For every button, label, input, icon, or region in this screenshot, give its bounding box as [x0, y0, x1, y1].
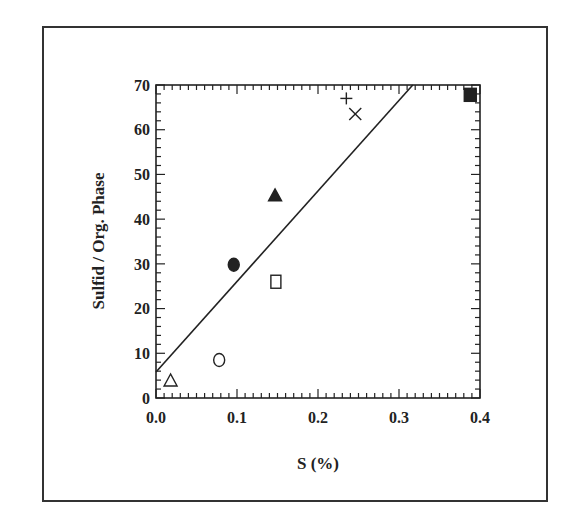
open-circle-marker [214, 353, 225, 366]
y-tick-0: 0 [142, 390, 150, 407]
x-tick-0.0: 0.0 [146, 409, 166, 426]
y-axis-title: Sulfid / Org. Phase [89, 172, 108, 309]
y-tick-20: 20 [134, 300, 150, 317]
data-points [164, 88, 476, 386]
open-square-marker [271, 275, 281, 288]
x-tick-0.2: 0.2 [308, 409, 328, 426]
axis-ticks [156, 85, 480, 398]
x-tick-labels: 0.0 0.1 0.2 0.3 0.4 [146, 409, 490, 426]
x-axis-title: S (%) [297, 454, 339, 473]
y-tick-10: 10 [134, 345, 150, 362]
y-tick-60: 60 [134, 121, 150, 138]
filled-square-marker [464, 88, 476, 101]
y-tick-70: 70 [134, 77, 150, 94]
x-tick-0.3: 0.3 [389, 409, 409, 426]
open-triangle-marker [164, 374, 177, 386]
x-tick-0.4: 0.4 [470, 409, 490, 426]
filled-circle-marker [228, 258, 239, 271]
y-tick-50: 50 [134, 166, 150, 183]
x-tick-0.1: 0.1 [227, 409, 247, 426]
y-tick-labels: 0 10 20 30 40 50 60 70 [134, 77, 150, 407]
y-tick-40: 40 [134, 211, 150, 228]
trend-line [156, 85, 413, 372]
cross-marker [349, 108, 361, 120]
filled-triangle-marker [269, 189, 282, 201]
plot-area [156, 85, 480, 398]
scatter-chart: 0 10 20 30 40 50 60 70 0.0 0.1 0.2 0.3 0… [0, 0, 570, 532]
plus-marker [340, 92, 352, 104]
y-tick-30: 30 [134, 256, 150, 273]
